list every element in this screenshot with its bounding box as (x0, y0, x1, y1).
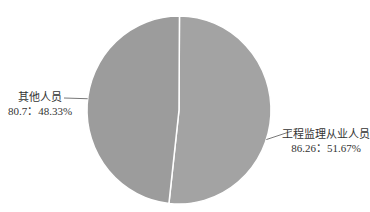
slice-label-name-1: 其他人员 (18, 91, 62, 103)
slice-label-name-0: 工程监理从业人员 (282, 128, 370, 140)
pie-slice-0 (169, 16, 271, 204)
pie-slices (87, 16, 271, 204)
slice-label-value-1: 80.7：48.33% (8, 105, 72, 117)
pie-chart: 工程监理从业人员 86.26：51.67% 其他人员 80.7：48.33% (0, 0, 370, 212)
slice-label-value-0: 86.26：51.67% (291, 142, 361, 154)
leader-line-1 (64, 98, 88, 99)
pie-slice-1 (87, 16, 179, 203)
